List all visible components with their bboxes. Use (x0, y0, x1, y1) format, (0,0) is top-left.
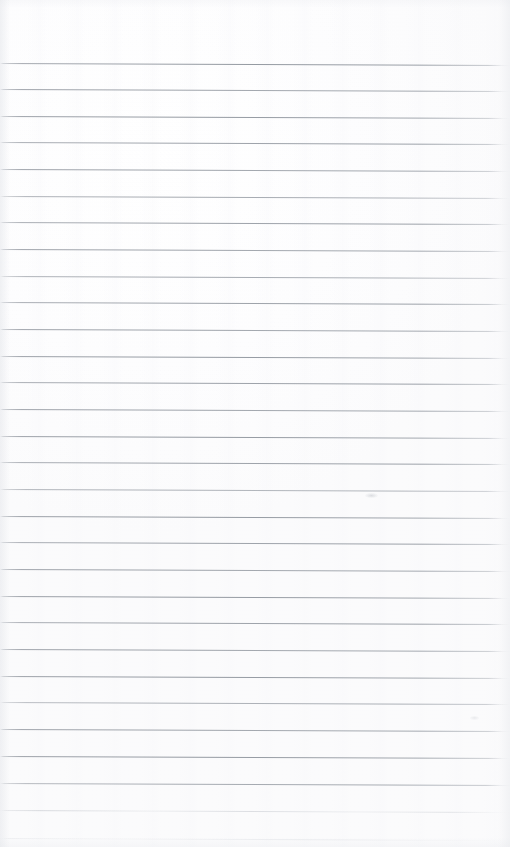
document-page (0, 0, 510, 847)
paper-surface (0, 0, 510, 847)
